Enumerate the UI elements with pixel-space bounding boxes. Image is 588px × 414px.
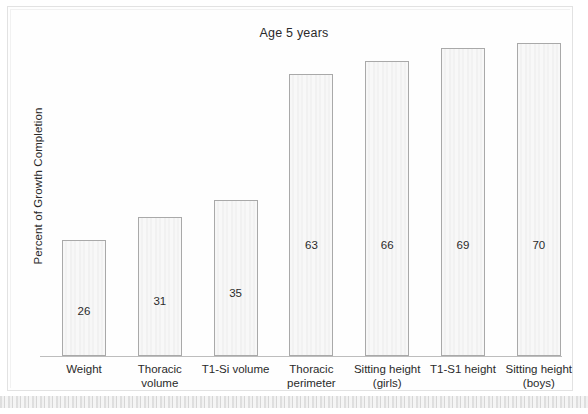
bar-value-label: 70 (518, 239, 560, 251)
x-axis-tick-label-line1: Sitting height (506, 363, 573, 375)
bar: 69 (441, 48, 485, 356)
page-bottom-margin (0, 408, 588, 414)
bar-value-label: 66 (366, 239, 408, 251)
x-axis-tick-label-line1: Thoracic (289, 363, 333, 375)
bar: 66 (365, 61, 409, 356)
bar-value-label: 26 (63, 305, 105, 317)
figure-container: Age 5 years Percent of Growth Completion… (0, 0, 588, 414)
bar: 70 (517, 43, 561, 356)
bar: 26 (62, 240, 106, 356)
bar: 31 (138, 217, 182, 356)
bar: 35 (214, 200, 258, 356)
bar-value-label: 31 (139, 295, 181, 307)
x-axis-tick-label: Sitting height(boys) (487, 362, 588, 390)
bar-value-label: 63 (290, 239, 332, 251)
scan-artifact-strip (0, 396, 588, 408)
bar-value-label: 69 (442, 239, 484, 251)
bar: 63 (289, 74, 333, 356)
x-axis-tick-label-line2: (boys) (487, 376, 588, 390)
x-axis-tick-label-line2: volume (108, 376, 212, 390)
bar-value-label: 35 (215, 287, 257, 299)
x-axis-tick-label-line2: (girls) (335, 376, 439, 390)
x-axis-line (40, 356, 562, 357)
plot-area: 26313563666970 (40, 18, 565, 356)
x-axis-tick-label-line1: Thoracic (138, 363, 182, 375)
x-axis-tick-label-line1: Weight (66, 363, 102, 375)
